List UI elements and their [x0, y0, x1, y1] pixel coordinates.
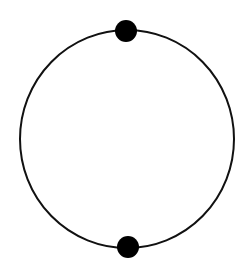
bottom-node-dot	[117, 236, 139, 258]
top-node-dot	[115, 20, 137, 42]
circle-diagram	[0, 0, 252, 261]
